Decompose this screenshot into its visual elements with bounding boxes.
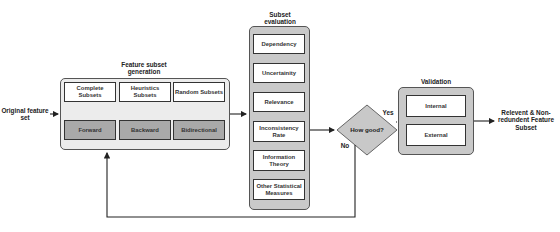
strategy-heuristics: Heuristics Subsets	[119, 82, 171, 102]
direction-forward: Forward	[64, 120, 116, 140]
generation-title: Feature subset generation	[112, 61, 176, 76]
measure-relevance: Relevance	[253, 92, 305, 112]
input-label: Original feature set	[0, 107, 50, 122]
measure-other-statistical: Other Statistical Measures	[253, 179, 305, 200]
validation-external: External	[406, 124, 466, 146]
measure-inconsistency-rate: Inconsistency Rate	[253, 121, 305, 142]
output-label: Relevent & Non-redundent Feature Subset	[494, 109, 558, 131]
strategy-complete: Complete Subsets	[64, 82, 116, 102]
evaluation-title: Subset evaluation	[254, 11, 306, 26]
measure-information-theory: Information Theory	[253, 150, 305, 171]
yes-label: Yes	[380, 109, 396, 116]
feedback-loop-arrow	[107, 145, 355, 217]
validation-internal: Internal	[406, 95, 466, 117]
measure-dependency: Dependency	[253, 34, 305, 54]
measure-uncertainity: Uncertainity	[253, 63, 305, 83]
direction-bidirectional: Bidirectional	[173, 120, 225, 140]
decision-question: How good?	[340, 126, 394, 133]
no-label: No	[338, 142, 352, 149]
direction-backward: Backward	[119, 120, 171, 140]
validation-title: Validation	[408, 78, 464, 85]
strategy-random: Random Subsets	[173, 82, 225, 102]
